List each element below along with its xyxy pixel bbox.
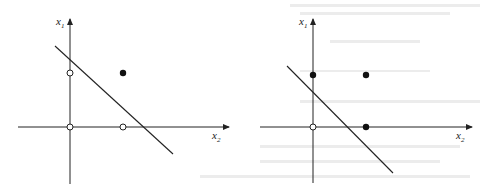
figure: x1 x2 x1 x2 <box>0 0 484 194</box>
x2-axis-label: x2 <box>455 129 465 144</box>
panel-left: x1 x2 <box>18 15 229 184</box>
point-open <box>67 70 73 76</box>
point-filled <box>310 72 316 78</box>
point-filled <box>363 124 369 130</box>
point-filled <box>363 72 369 78</box>
point-open <box>120 124 126 130</box>
bleed-through-texture <box>200 4 480 178</box>
x2-axis-label: x2 <box>211 129 221 144</box>
point-open <box>310 124 316 130</box>
x1-axis-label: x1 <box>298 15 307 30</box>
point-filled <box>120 70 126 76</box>
x1-axis-label: x1 <box>55 15 64 30</box>
point-open <box>67 124 73 130</box>
decision-line <box>55 46 173 154</box>
decision-line <box>287 66 393 173</box>
